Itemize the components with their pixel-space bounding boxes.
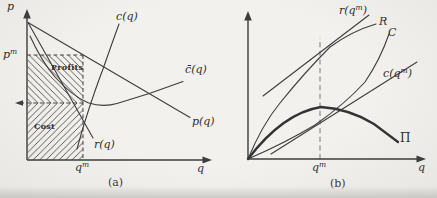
panel-b — [244, 11, 426, 163]
quantity-axis-label: q — [197, 163, 204, 174]
revenue-tangent-line — [263, 15, 369, 96]
quantity-axis-b-label: q — [418, 162, 425, 173]
profit-label: Π — [400, 132, 410, 144]
average-cost-label: c̄(q) — [185, 64, 207, 75]
demand-label: p(q) — [192, 116, 215, 127]
total-cost-label: C — [388, 27, 396, 38]
revenue-tangent-sup: m — [356, 3, 363, 12]
monopoly-quantity-label: qm — [75, 162, 89, 173]
cost-tangent-sup: m — [401, 66, 408, 75]
monopoly-figure-canvas — [0, 0, 437, 198]
monopoly-quantity-sup: m — [82, 160, 89, 169]
revenue-label: R — [379, 16, 387, 27]
value-axis-arrow-icon — [244, 11, 252, 21]
panel-a-caption: (a) — [108, 177, 123, 188]
cost-region-label: Cost — [34, 122, 55, 130]
cost-tangent-post: ) — [408, 67, 412, 80]
marginal-cost-label: c(q) — [116, 11, 138, 22]
monopoly-price-base: p — [3, 48, 10, 61]
revenue-tangent-label: r(qm) — [339, 5, 367, 16]
monopoly-quantity-b-base: q — [312, 161, 319, 174]
panel-b-caption: (b) — [330, 178, 346, 189]
cost-tangent-label: c(qm) — [383, 68, 412, 79]
cost-region-hatch — [28, 103, 84, 160]
average-cost-level-arrow-icon — [15, 100, 23, 106]
revenue-tangent-pre: r(q — [339, 4, 356, 17]
monopoly-quantity-b-label: qm — [312, 162, 326, 173]
revenue-tangent-post: ) — [363, 4, 367, 17]
profit-region-label: Profits — [51, 63, 83, 71]
cost-tangent-pre: c(q — [383, 67, 401, 80]
textbook-figure-page: p q pm qm c(q) c̄(q) p(q) r(q) Profits C… — [0, 0, 437, 198]
monopoly-price-sup: m — [10, 47, 17, 56]
marginal-revenue-label: r(q) — [94, 139, 115, 150]
price-axis-arrow-icon — [23, 9, 31, 19]
total-revenue-curve — [248, 24, 376, 159]
monopoly-quantity-base: q — [75, 161, 82, 174]
total-cost-curve — [248, 34, 389, 159]
price-axis-label: p — [7, 1, 14, 12]
monopoly-quantity-b-sup: m — [319, 160, 326, 169]
profit-curve — [248, 107, 398, 159]
monopoly-price-label: pm — [3, 49, 17, 60]
